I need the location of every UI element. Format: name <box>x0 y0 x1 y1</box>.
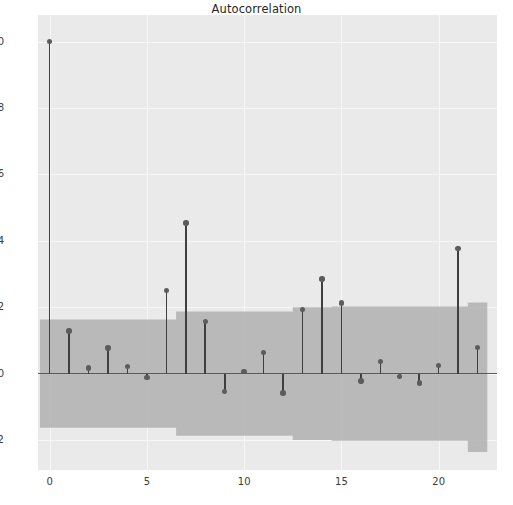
stem-line <box>204 322 206 374</box>
stem-marker <box>105 345 110 350</box>
stem-line <box>341 303 343 374</box>
plot-area <box>38 15 497 470</box>
stem-line <box>107 348 109 374</box>
stem-marker <box>397 374 402 379</box>
page-title: Autocorrelation <box>0 2 513 16</box>
acf-stems <box>38 15 497 470</box>
stem-marker <box>222 389 227 394</box>
x-tick-label: 10 <box>238 476 251 487</box>
x-tick-label: 15 <box>335 476 348 487</box>
stem-marker <box>300 307 305 312</box>
stem-line <box>263 353 265 374</box>
x-tick-label: 5 <box>144 476 150 487</box>
stem-marker <box>47 39 52 44</box>
stem-marker <box>261 350 266 355</box>
y-tick-label: 0.2 <box>0 301 4 312</box>
x-tick-label: 20 <box>432 476 445 487</box>
stem-line <box>321 279 323 374</box>
stem-marker <box>66 328 71 333</box>
stem-marker <box>183 220 188 225</box>
stem-line <box>166 290 168 373</box>
stem-line <box>457 248 459 373</box>
y-tick-label: 0.8 <box>0 102 4 113</box>
stem-marker <box>280 390 285 395</box>
y-tick-label: 0.0 <box>0 368 4 379</box>
stem-line <box>477 348 479 374</box>
y-tick-label: 0.4 <box>0 235 4 246</box>
stem-marker <box>125 364 130 369</box>
stem-marker <box>339 300 344 305</box>
autocorrelation-figure: Autocorrelation −0.20.00.20.40.60.81.0 0… <box>0 0 513 505</box>
stem-marker <box>417 380 422 385</box>
stem-line <box>185 223 187 374</box>
stem-marker <box>455 246 460 251</box>
y-tick-label: 1.0 <box>0 36 4 47</box>
y-tick-label: −0.2 <box>0 434 4 445</box>
stem-marker <box>319 276 324 281</box>
stem-marker <box>475 345 480 350</box>
stem-marker <box>436 363 441 368</box>
stem-marker <box>358 378 363 383</box>
stem-line <box>49 42 51 374</box>
stem-marker <box>164 288 169 293</box>
stem-marker <box>86 365 91 370</box>
x-tick-label: 0 <box>46 476 52 487</box>
stem-marker <box>241 369 246 374</box>
stem-marker <box>378 359 383 364</box>
stem-line <box>302 310 304 374</box>
y-tick-label: 0.6 <box>0 168 4 179</box>
stem-marker <box>144 375 149 380</box>
stem-line <box>68 331 70 374</box>
stem-marker <box>203 319 208 324</box>
